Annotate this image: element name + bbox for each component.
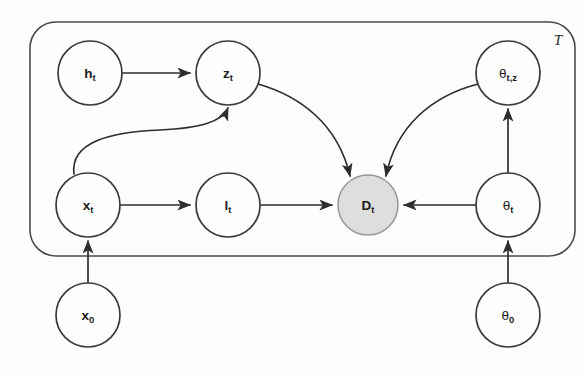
- node-h_t[interactable]: ht: [58, 41, 122, 105]
- node-th_t[interactable]: θt: [476, 173, 540, 237]
- edge-z_t-to-D_t: [258, 84, 350, 176]
- node-x_0[interactable]: x0: [56, 283, 120, 347]
- node-x_t[interactable]: xt: [56, 173, 120, 237]
- node-th_0[interactable]: θ0: [476, 283, 540, 347]
- plate-label-T: T: [554, 32, 564, 48]
- node-th_tz[interactable]: θt,z: [476, 41, 540, 105]
- diagram-canvas: T htztθt,zxtltDtθtx0θ0: [0, 0, 587, 374]
- node-D_t[interactable]: Dt: [338, 175, 398, 235]
- node-z_t[interactable]: zt: [196, 41, 260, 105]
- edge-th_tz-to-D_t: [386, 84, 478, 176]
- edges-layer: [74, 73, 508, 283]
- graphical-model-svg: T htztθt,zxtltDtθtx0θ0: [0, 0, 587, 374]
- edge-x_t-to-z_t: [74, 108, 228, 174]
- node-l_t[interactable]: lt: [196, 173, 260, 237]
